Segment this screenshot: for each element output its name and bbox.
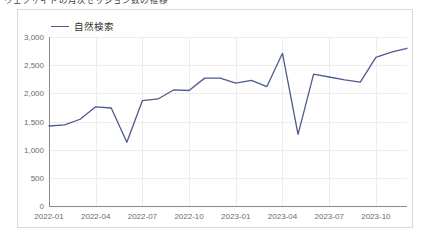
x-axis-tick-label: 2023-04: [268, 212, 298, 221]
chart-panel: 自然検索 05001,0001,5002,0002,5003,000 2022-…: [17, 9, 413, 228]
y-axis-tick-label: 2,000: [24, 89, 45, 98]
x-axis-tick-label: 2022-10: [174, 212, 204, 221]
x-axis-tick-label: 2023-07: [314, 212, 344, 221]
x-axis-tick-label: 2022-01: [34, 212, 64, 221]
y-axis-tick-label: 500: [31, 174, 45, 183]
y-axis-tick-label: 1,000: [24, 146, 45, 155]
x-axis-tick-label: 2023-10: [361, 212, 391, 221]
x-axis-ticks: 2022-012022-042022-072022-102023-012023-…: [34, 212, 391, 221]
x-axis-tick-label: 2022-04: [81, 212, 111, 221]
data-series-group: [49, 48, 407, 142]
plot-area: 05001,0001,5002,0002,5003,000 2022-01202…: [18, 10, 414, 229]
x-axis-tick-label: 2022-07: [128, 212, 158, 221]
x-axis-tick-label: 2023-01: [221, 212, 251, 221]
y-axis-tick-label: 3,000: [24, 33, 45, 42]
chart-screenshot-root: ウェブサイトの月次セッション数の推移 自然検索 05001,0001,5002,…: [0, 0, 421, 238]
y-axis-tick-label: 1,500: [24, 118, 45, 127]
series-line-自然検索: [49, 48, 407, 142]
top-caption: ウェブサイトの月次セッション数の推移: [4, 0, 264, 5]
line-chart-svg: 05001,0001,5002,0002,5003,000 2022-01202…: [18, 10, 414, 229]
y-axis-tick-label: 0: [40, 202, 45, 211]
gridlines: [49, 37, 407, 206]
y-axis-tick-label: 2,500: [24, 61, 45, 70]
y-axis-ticks: 05001,0001,5002,0002,5003,000: [24, 33, 45, 211]
